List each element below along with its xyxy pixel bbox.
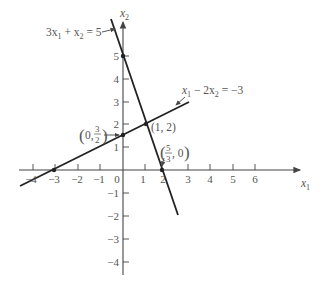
svg-text:−2: −2 [107,210,119,222]
line-3x1-plus-x2-eq-5 [111,19,178,215]
svg-text:−2: −2 [71,173,83,185]
svg-text:−4: −4 [25,173,37,185]
point-1-2 [144,122,148,126]
intersection-points [52,54,164,172]
eq2-label: x1 − 2x2 = −3 [181,84,244,99]
svg-text:3: 3 [185,173,191,185]
svg-text:6: 6 [252,173,258,185]
y-axis [123,22,129,275]
svg-text:5: 5 [230,173,236,185]
svg-text:2: 2 [95,135,100,145]
point-neg3-0 [52,168,56,172]
svg-text:5: 5 [166,143,171,153]
y-tick-labels: 5 4 3 2 1 −1 −2 −3 −4 [107,50,119,268]
svg-text:4: 4 [114,73,120,85]
svg-text:3: 3 [95,124,100,134]
svg-text:0: 0 [114,173,120,185]
svg-text:, 0: , 0 [172,147,184,160]
point-0-5 [121,54,125,58]
svg-text:0,: 0, [85,129,94,142]
x-intercept-label: ( 5 3 , 0 ) [160,143,190,164]
svg-text:3: 3 [166,154,171,164]
svg-text:4: 4 [207,173,213,185]
svg-text:2: 2 [114,118,120,130]
svg-text:−3: −3 [48,173,60,185]
svg-text:−3: −3 [107,233,119,245]
svg-text:1: 1 [114,141,120,153]
point-5over3-0 [160,168,164,172]
svg-text:3: 3 [114,96,120,108]
svg-text:): ) [184,143,190,162]
eq1-label: 3x1 + x2 = 5 [46,26,102,41]
x-tick-labels: −4 −3 −2 −1 0 1 2 3 4 5 6 [25,173,258,185]
point-0-1.5 [121,133,125,137]
intersection-label: (1, 2) [151,121,176,134]
graph-canvas: x2 x1 3x1 + x2 = 5 x1 − 2x2 = −3 (1, 2) … [0,0,325,290]
svg-text:−1: −1 [93,173,105,185]
x-axis-label: x1 [300,177,310,192]
y-intercept-label: ( 0, 3 2 ) [79,124,108,145]
svg-text:2: 2 [160,173,166,185]
svg-text:1: 1 [140,173,146,185]
y-axis-label: x2 [119,7,129,22]
svg-text:5: 5 [114,50,120,62]
svg-text:): ) [102,126,108,145]
eq1-pointer-arrow [102,29,115,32]
svg-text:−1: −1 [107,187,119,199]
svg-text:−4: −4 [107,256,119,268]
